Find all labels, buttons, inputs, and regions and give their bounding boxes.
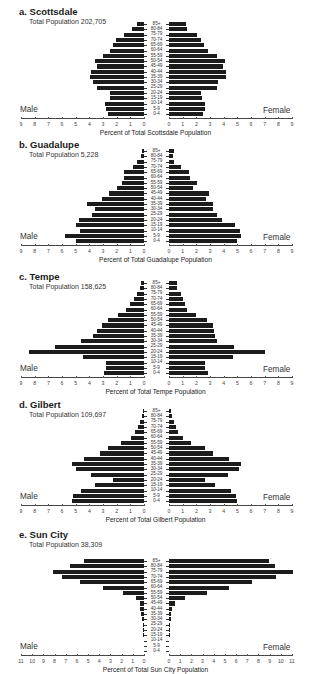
axis-tick: [110, 654, 111, 657]
axis-tick: [110, 505, 111, 507]
axis-tick: [169, 244, 170, 247]
female-bar: [169, 43, 204, 47]
axis-tick: [42, 377, 43, 379]
female-bar: [169, 436, 183, 440]
female-bar: [169, 49, 208, 53]
female-tick-label: 6: [245, 122, 257, 127]
axis-tick: [210, 117, 211, 120]
axis-tick: [76, 376, 77, 379]
axis-tick: [270, 654, 271, 657]
female-tick-label: 9: [286, 381, 298, 386]
axis-tick: [32, 654, 33, 657]
female-bar: [169, 112, 203, 116]
axis-tick: [281, 654, 282, 657]
axis-tick: [42, 118, 43, 120]
panel-title: c. Tempe: [19, 271, 59, 282]
axis-tick: [144, 244, 145, 247]
female-bar: [169, 181, 197, 185]
female-tick-label: 2: [190, 122, 202, 127]
male-bar: [133, 165, 144, 169]
axis-tick: [217, 505, 218, 507]
female-tick-label: 3: [204, 509, 216, 514]
female-tick-label: 2: [190, 509, 202, 514]
female-tick-label: 8: [272, 122, 284, 127]
axis-tick: [76, 244, 77, 247]
female-tick-label: 7: [259, 509, 271, 514]
female-tick-label: 4: [218, 381, 230, 386]
male-bar: [110, 91, 144, 95]
female-bar: [169, 499, 237, 503]
axis-tick: [99, 654, 100, 657]
axis-tick: [55, 505, 56, 507]
male-tick-label: 7: [42, 509, 54, 514]
female-bar: [169, 234, 241, 238]
axis-tick: [247, 654, 248, 657]
male-bar: [102, 197, 144, 201]
male-tick-label: 1: [124, 249, 136, 254]
male-bar: [76, 223, 144, 227]
female-tick-label: 5: [231, 249, 243, 254]
female-bar: [169, 494, 236, 498]
female-bar: [169, 564, 275, 568]
axis-tick: [137, 377, 138, 379]
male-tick-label: 0: [138, 381, 150, 386]
male-tick-label: 5: [82, 659, 94, 664]
axis-tick: [48, 117, 49, 120]
axis-tick: [236, 654, 237, 657]
male-tick-label: 5: [70, 509, 82, 514]
axis-tick: [264, 655, 265, 657]
axis-tick: [124, 118, 125, 120]
female-bar: [169, 160, 174, 164]
female-bar: [169, 27, 187, 31]
female-bar: [169, 223, 235, 227]
male-tick-label: 7: [42, 249, 54, 254]
age-group-label: 0-4: [144, 112, 170, 117]
male-label: Male: [20, 105, 38, 114]
female-bar: [169, 281, 177, 285]
axis-tick: [224, 117, 225, 120]
female-bar: [169, 478, 205, 482]
panel-title: d. Gilbert: [19, 399, 61, 410]
axis-tick: [292, 654, 293, 657]
female-bar: [169, 96, 202, 100]
axis-tick: [224, 244, 225, 247]
axis-tick: [183, 117, 184, 120]
axis-tick: [21, 376, 22, 379]
axis-tick: [196, 504, 197, 507]
axis-tick: [176, 505, 177, 507]
female-bar: [169, 33, 197, 37]
axis-tick: [258, 118, 259, 120]
axis-tick: [258, 245, 259, 247]
axis-tick: [237, 376, 238, 379]
female-tick-label: 3: [204, 381, 216, 386]
female-tick-label: 2: [185, 659, 197, 664]
axis-tick: [253, 655, 254, 657]
female-bar: [169, 483, 215, 487]
axis-tick: [244, 377, 245, 379]
male-tick-label: 4: [83, 122, 95, 127]
axis-tick: [116, 655, 117, 657]
female-bar: [169, 102, 205, 106]
axis-tick: [48, 376, 49, 379]
male-tick-label: 0: [138, 122, 150, 127]
axis-tick: [237, 117, 238, 120]
female-bar: [169, 355, 233, 359]
male-bar: [103, 586, 144, 590]
axis-tick: [83, 118, 84, 120]
axis-tick: [66, 654, 67, 657]
axis-tick: [251, 244, 252, 247]
axis-tick: [272, 245, 273, 247]
female-tick-label: 5: [231, 509, 243, 514]
male-tick-label: 7: [42, 122, 54, 127]
axis-tick: [278, 504, 279, 507]
axis-tick: [124, 377, 125, 379]
female-tick-label: 0: [163, 122, 175, 127]
axis-tick: [69, 377, 70, 379]
male-bar: [97, 64, 144, 68]
female-bar: [169, 229, 240, 233]
male-bar: [95, 207, 144, 211]
male-bar: [72, 462, 144, 466]
axis-tick: [190, 377, 191, 379]
male-bar: [106, 361, 144, 365]
male-bar: [126, 308, 144, 312]
